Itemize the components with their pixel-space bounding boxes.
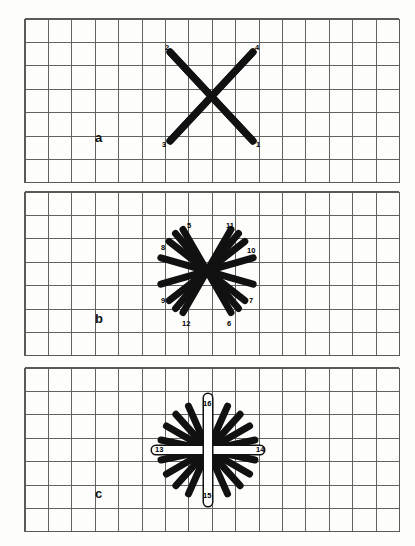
stroke-number-16: 16 — [203, 400, 211, 408]
stroke-number-14: 14 — [256, 446, 264, 454]
grid-c — [0, 0, 415, 546]
panel-label-c: c — [95, 487, 102, 500]
stroke-number-13: 13 — [155, 446, 163, 454]
stroke-number-15: 15 — [203, 492, 211, 500]
figure-page: a 1234 b 51181097126 c 16131415 — [0, 0, 415, 546]
